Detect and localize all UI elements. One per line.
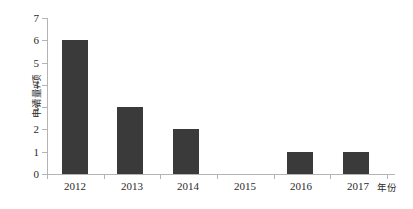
bar-2014 [173,129,199,174]
bar-2017 [343,152,369,174]
x-tick-mark [274,174,275,179]
x-tick-label-2012: 2012 [45,180,105,193]
x-tick-mark [330,174,331,179]
x-tick-mark [217,174,218,179]
x-tick-mark [387,174,388,179]
y-axis-title: 申请量/项 [29,74,43,118]
y-tick-label: 7 [9,13,39,24]
bar-2012 [62,40,88,174]
plot-area [47,18,394,174]
x-tick-label-2013: 2013 [102,180,162,193]
y-tick-label: 6 [9,35,39,46]
bar-2016 [287,152,313,174]
x-tick-label-2015: 2015 [215,180,275,193]
x-tick-label-2016: 2016 [271,180,331,193]
y-tick-label: 5 [9,57,39,68]
x-tick-mark [160,174,161,179]
bar-2013 [117,107,143,174]
y-tick-label: 1 [9,146,39,157]
x-tick-mark [104,174,105,179]
bar-chart: 7 6 5 4 3 2 1 0 2012 2013 2014 2015 2016… [0,0,413,209]
x-tick-label-2014: 2014 [158,180,218,193]
x-axis-line [47,174,395,175]
y-tick-label: 0 [9,169,39,180]
x-axis-title: 年份 [377,180,397,194]
y-tick-label: 2 [9,124,39,135]
x-tick-mark [47,174,48,179]
